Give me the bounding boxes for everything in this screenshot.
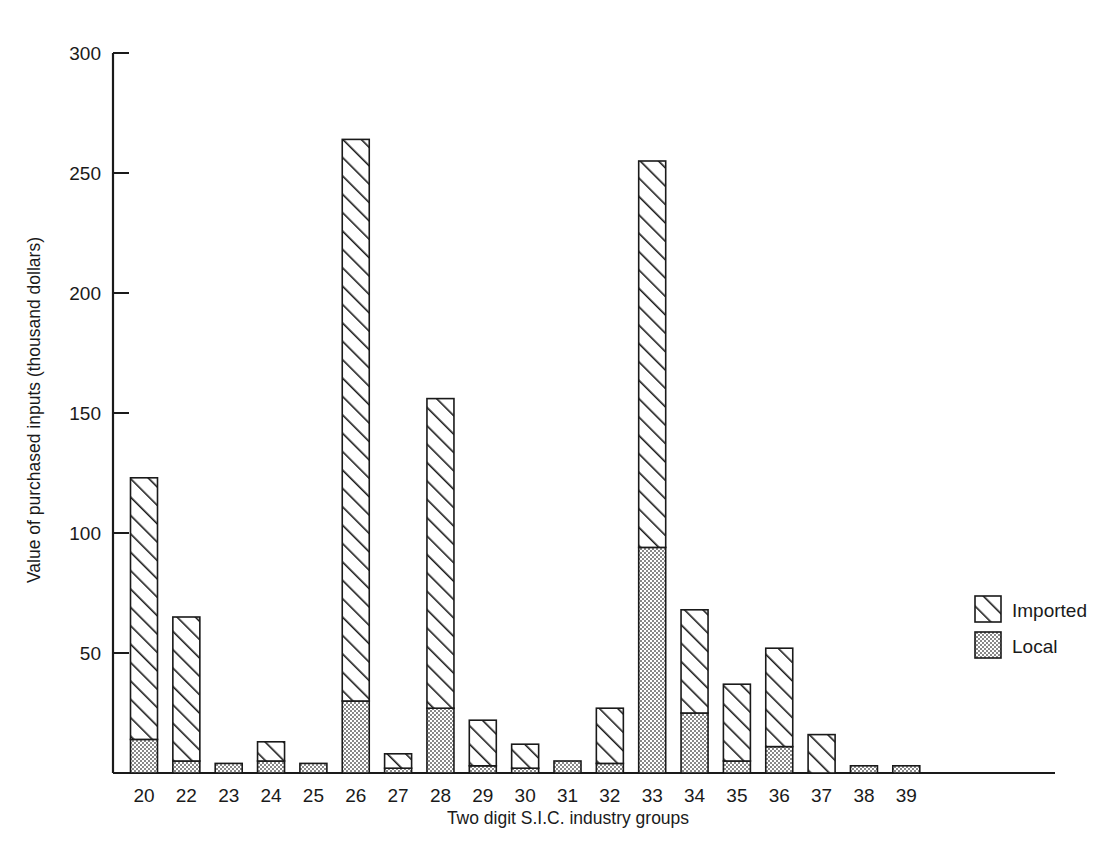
bar-segment-local-31 [554, 761, 581, 773]
bar-segment-local-35 [723, 761, 750, 773]
x-tick-label-25: 25 [303, 785, 324, 806]
legend-swatch-imported [975, 596, 1001, 622]
x-tick-label-26: 26 [345, 785, 366, 806]
legend-label-imported: Imported [1012, 600, 1087, 621]
bar-segment-local-38 [850, 766, 877, 773]
x-tick-label-23: 23 [218, 785, 239, 806]
x-tick-label-37: 37 [811, 785, 832, 806]
bar-segment-imported-33 [639, 161, 666, 547]
bars-layer [131, 139, 920, 773]
bar-segment-local-39 [893, 766, 920, 773]
bar-segment-local-36 [766, 747, 793, 773]
bar-segment-local-24 [258, 761, 285, 773]
bar-segment-imported-37 [808, 735, 835, 773]
y-tick-label-100: 100 [69, 523, 101, 544]
bar-segment-imported-24 [258, 742, 285, 761]
bar-segment-imported-28 [427, 399, 454, 709]
x-tick-label-34: 34 [684, 785, 706, 806]
bar-segment-local-28 [427, 708, 454, 773]
bar-segment-imported-20 [131, 478, 158, 740]
bar-segment-local-25 [300, 763, 327, 773]
bar-segment-local-26 [342, 701, 369, 773]
x-tick-label-20: 20 [133, 785, 154, 806]
bar-segment-local-29 [469, 766, 496, 773]
bar-segment-imported-22 [173, 617, 200, 761]
bar-segment-local-20 [131, 739, 158, 773]
x-tick-label-30: 30 [515, 785, 536, 806]
x-axis-title: Two digit S.I.C. industry groups [447, 808, 689, 828]
bar-segment-imported-32 [596, 708, 623, 763]
x-tick-label-39: 39 [896, 785, 917, 806]
bar-segment-local-33 [639, 547, 666, 773]
bar-segment-imported-36 [766, 648, 793, 746]
bar-segment-imported-35 [723, 684, 750, 761]
x-tick-label-38: 38 [853, 785, 874, 806]
x-tick-label-35: 35 [726, 785, 747, 806]
y-axis-title: Value of purchased inputs (thousand doll… [24, 237, 44, 583]
category-labels: 20222324252627282930313233343536373839 [133, 785, 916, 806]
bar-segment-imported-30 [512, 744, 539, 768]
legend-swatch-local [975, 632, 1001, 658]
bar-segment-local-23 [215, 763, 242, 773]
x-tick-label-27: 27 [388, 785, 409, 806]
chart-canvas: 50100150200250300 2022232425262728293031… [0, 0, 1105, 861]
x-tick-label-22: 22 [176, 785, 197, 806]
bar-segment-local-22 [173, 761, 200, 773]
y-tick-label-300: 300 [69, 43, 101, 64]
y-tick-label-200: 200 [69, 283, 101, 304]
x-tick-label-29: 29 [472, 785, 493, 806]
x-tick-label-24: 24 [260, 785, 282, 806]
x-tick-label-31: 31 [557, 785, 578, 806]
y-tick-label-50: 50 [80, 643, 101, 664]
stacked-bar-chart: 50100150200250300 2022232425262728293031… [0, 0, 1105, 861]
bar-segment-imported-27 [385, 754, 412, 768]
y-tick-label-250: 250 [69, 163, 101, 184]
legend: Imported Local [975, 596, 1087, 658]
x-tick-label-33: 33 [642, 785, 663, 806]
bar-segment-imported-26 [342, 139, 369, 701]
bar-segment-imported-34 [681, 610, 708, 713]
y-axis: 50100150200250300 [69, 43, 129, 773]
x-tick-label-28: 28 [430, 785, 451, 806]
bar-segment-local-34 [681, 713, 708, 773]
bar-segment-local-32 [596, 763, 623, 773]
x-tick-label-32: 32 [599, 785, 620, 806]
y-tick-label-150: 150 [69, 403, 101, 424]
legend-label-local: Local [1012, 636, 1057, 657]
bar-segment-imported-29 [469, 720, 496, 766]
x-tick-label-36: 36 [769, 785, 790, 806]
